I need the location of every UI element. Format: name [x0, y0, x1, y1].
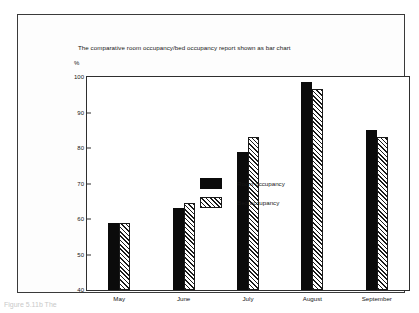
x-tick-label-september: September — [362, 295, 392, 302]
bar-august-bed-occupancy — [312, 89, 323, 290]
bar-group-august — [301, 82, 323, 290]
bar-september-room-occupancy — [366, 130, 377, 290]
y-tick-label-70: 70 — [77, 181, 84, 187]
chart-legend: Room occupancyBed occupancy — [200, 178, 285, 216]
plot-area: 100908070605040 MayJuneJulyAugustSeptemb… — [86, 76, 410, 291]
figure-caption: Figure 5.11b The — [4, 301, 57, 310]
bar-july-room-occupancy — [237, 152, 248, 290]
bar-september-bed-occupancy — [377, 137, 388, 290]
y-tick-label-90: 90 — [77, 110, 84, 116]
bar-group-june — [173, 203, 195, 290]
y-axis-unit-label: % — [74, 60, 79, 66]
legend-swatch-hatched-icon — [200, 197, 222, 208]
x-tick-label-august: August — [303, 295, 322, 302]
bar-june-bed-occupancy — [184, 203, 195, 290]
y-tick-label-60: 60 — [77, 216, 84, 222]
figure-border: The comparative room occupancy/bed occup… — [17, 14, 405, 293]
legend-item-bed-occupancy: Bed occupancy — [200, 197, 285, 208]
y-tick-mark-50 — [87, 254, 91, 255]
x-tick-label-may: May — [113, 295, 125, 302]
legend-item-room-occupancy: Room occupancy — [200, 178, 285, 189]
x-tick-label-june: June — [177, 295, 190, 302]
legend-label: Room occupancy — [237, 180, 285, 187]
bar-august-room-occupancy — [301, 82, 312, 290]
y-tick-mark-80 — [87, 148, 91, 149]
y-tick-mark-90 — [87, 112, 91, 113]
legend-swatch-solid-icon — [200, 178, 222, 189]
y-tick-mark-70 — [87, 183, 91, 184]
bar-may-bed-occupancy — [119, 223, 130, 290]
bar-group-may — [108, 223, 130, 290]
legend-label: Bed occupancy — [237, 199, 279, 206]
bar-group-september — [366, 130, 388, 290]
bar-may-room-occupancy — [108, 223, 119, 290]
y-tick-label-50: 50 — [77, 252, 84, 258]
bar-june-room-occupancy — [173, 208, 184, 290]
y-tick-label-80: 80 — [77, 145, 84, 151]
chart-title: The comparative room occupancy/bed occup… — [78, 44, 291, 51]
y-tick-mark-60 — [87, 219, 91, 220]
x-tick-label-july: July — [242, 295, 253, 302]
y-tick-label-40: 40 — [77, 287, 84, 293]
y-tick-label-100: 100 — [74, 74, 84, 80]
